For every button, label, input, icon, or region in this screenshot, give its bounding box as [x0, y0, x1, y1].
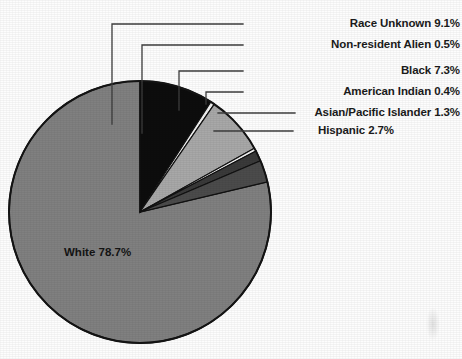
callout-label-race-unknown: Race Unknown 9.1%	[350, 17, 460, 30]
callout-label-non-resident-alien: Non-resident Alien 0.5%	[331, 38, 460, 51]
pie-chart	[0, 0, 462, 359]
pie-slices	[9, 81, 271, 343]
callout-label-asian-pacific-islander: Asian/Pacific Islander 1.3%	[314, 106, 460, 119]
scan-artifact	[426, 307, 440, 341]
pie-slice-label-white: White 78.7%	[64, 246, 131, 258]
callout-label-hispanic: Hispanic 2.7%	[318, 124, 394, 137]
callout-label-black: Black 7.3%	[401, 64, 460, 77]
callout-label-american-indian: American Indian 0.4%	[343, 85, 460, 98]
chart-canvas: Race Unknown 9.1% Non-resident Alien 0.5…	[0, 0, 462, 359]
